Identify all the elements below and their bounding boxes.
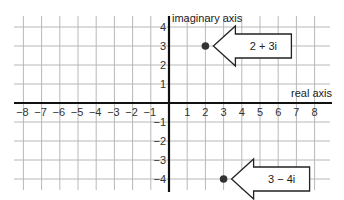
real-tick-label: −6 <box>53 106 66 118</box>
real-tick-label: −3 <box>107 106 120 118</box>
real-tick-label: −5 <box>71 106 84 118</box>
imaginary-tick-label: 4 <box>160 21 166 33</box>
imaginary-axis-label: imaginary axis <box>172 12 243 24</box>
imaginary-tick-label: 1 <box>160 78 166 90</box>
imaginary-tick-label: −4 <box>153 173 166 185</box>
real-tick-label: 4 <box>239 106 245 118</box>
point-label: 3 − 4i <box>268 173 295 185</box>
imaginary-tick-label: −2 <box>153 135 166 147</box>
real-tick-label: 8 <box>312 106 318 118</box>
point-marker <box>202 42 210 50</box>
imaginary-tick-label: −3 <box>153 154 166 166</box>
real-axis-label: real axis <box>291 87 332 99</box>
point-marker <box>220 175 228 183</box>
real-tick-label: 3 <box>221 106 227 118</box>
real-tick-label: −2 <box>125 106 138 118</box>
real-tick-label: 2 <box>202 106 208 118</box>
real-tick-label: −4 <box>89 106 102 118</box>
real-tick-label: 1 <box>184 106 190 118</box>
imaginary-tick-label: 3 <box>160 40 166 52</box>
real-tick-label: −7 <box>34 106 47 118</box>
imaginary-tick-label: −1 <box>153 116 166 128</box>
complex-plane-diagram: −8−7−6−5−4−3−2−1123456784321−1−2−3−4 ima… <box>0 0 344 200</box>
point-label: 2 + 3i <box>250 40 277 52</box>
real-tick-label: −8 <box>16 106 29 118</box>
real-tick-label: 5 <box>257 106 263 118</box>
real-tick-label: 6 <box>275 106 281 118</box>
imaginary-tick-label: 2 <box>160 59 166 71</box>
real-tick-label: 7 <box>293 106 299 118</box>
